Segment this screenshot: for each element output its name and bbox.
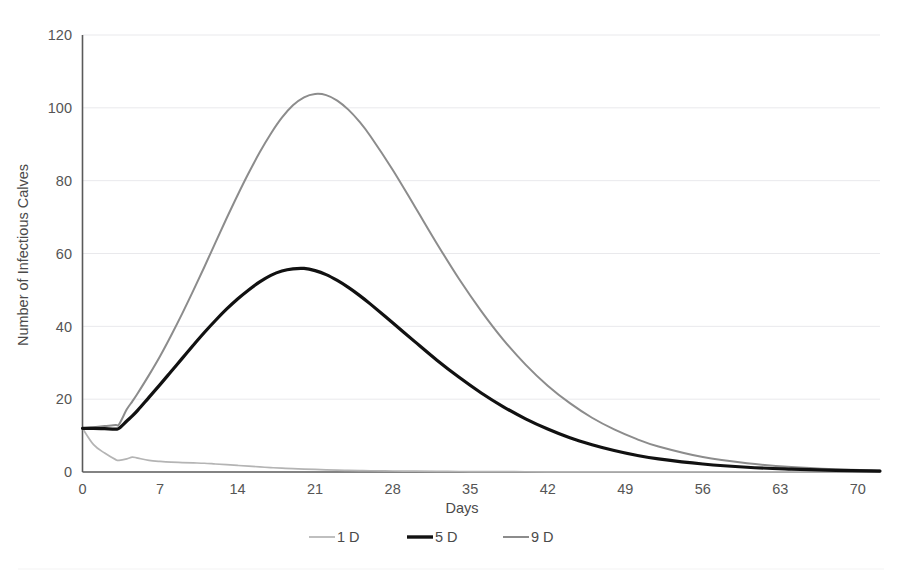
x-tick-label-70: 70: [850, 481, 866, 497]
series-line-9-d: [83, 94, 881, 471]
x-tick-label-7: 7: [156, 481, 164, 497]
chart-container: 020406080100120 07142128354249566370 Num…: [0, 0, 901, 576]
chart-legend: 1 D5 D9 D: [309, 529, 554, 545]
y-axis-tick-labels: 020406080100120: [48, 27, 72, 480]
x-tick-label-35: 35: [462, 481, 478, 497]
x-tick-label-14: 14: [229, 481, 245, 497]
y-tick-label-80: 80: [56, 173, 72, 189]
y-axis-title: Number of Infectious Calves: [15, 164, 31, 346]
series-line-5-d: [83, 268, 881, 471]
legend-label-1-d: 1 D: [337, 529, 360, 545]
y-tick-label-40: 40: [56, 319, 72, 335]
x-tick-label-49: 49: [617, 481, 633, 497]
x-tick-label-0: 0: [78, 481, 86, 497]
legend-label-5-d: 5 D: [435, 529, 458, 545]
y-tick-label-0: 0: [64, 464, 72, 480]
y-tick-label-100: 100: [48, 100, 72, 116]
gridlines: [83, 35, 881, 399]
line-chart: 020406080100120 07142128354249566370 Num…: [0, 0, 901, 576]
x-tick-label-42: 42: [540, 481, 556, 497]
x-tick-label-28: 28: [385, 481, 401, 497]
data-series-group: [83, 94, 881, 472]
legend-label-9-d: 9 D: [531, 529, 554, 545]
x-tick-label-56: 56: [695, 481, 711, 497]
y-tick-label-60: 60: [56, 246, 72, 262]
y-tick-label-20: 20: [56, 391, 72, 407]
y-tick-label-120: 120: [48, 27, 72, 43]
x-axis-title: Days: [445, 500, 478, 516]
x-tick-label-63: 63: [772, 481, 788, 497]
x-tick-label-21: 21: [307, 481, 323, 497]
x-axis-tick-labels: 07142128354249566370: [78, 481, 865, 497]
